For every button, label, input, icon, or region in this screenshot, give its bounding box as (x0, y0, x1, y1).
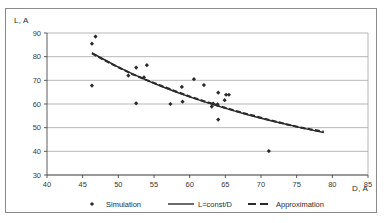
legend-label: Simulation (106, 200, 141, 209)
data-point-diamond (267, 149, 271, 153)
x-tick-label: 40 (43, 180, 51, 189)
x-tick-label: 45 (78, 180, 86, 189)
chart-figure: L, A D, A 30405060708090 404550556065707… (0, 0, 386, 223)
data-point-diamond (126, 74, 130, 78)
y-tick-label: 50 (33, 123, 41, 132)
y-axis-ticks-group: 30405060708090 (33, 29, 47, 180)
data-point-diamond (134, 101, 138, 105)
x-tick-label: 70 (257, 180, 265, 189)
series-line-l-const-d (92, 53, 324, 133)
series-line-approximation (92, 53, 324, 131)
data-point-diamond (180, 100, 184, 104)
y-tick-label: 40 (33, 147, 41, 156)
y-tick-label: 80 (33, 52, 41, 61)
chart-legend: SimulationL=const/DApproximation (90, 200, 324, 209)
legend-label: L=const/D (198, 200, 233, 209)
y-tick-label: 90 (33, 29, 41, 38)
data-point-diamond (216, 118, 220, 122)
data-point-diamond (145, 63, 149, 67)
data-point-diamond (90, 42, 94, 46)
x-axis-ticks-group: 40455055606570758085 (43, 175, 372, 189)
data-point-diamond (223, 98, 227, 102)
y-tick-label: 30 (33, 171, 41, 180)
data-point-diamond (168, 102, 172, 106)
data-point-diamond (227, 93, 231, 97)
chart-plot: 30405060708090 40455055606570758085 Simu… (0, 0, 386, 223)
data-point-diamond (93, 34, 97, 38)
data-point-diamond (134, 65, 138, 69)
x-tick-label: 65 (221, 180, 229, 189)
x-tick-label: 55 (150, 180, 158, 189)
legend-marker-simulation (90, 202, 94, 206)
data-point-diamond (216, 91, 220, 95)
data-point-diamond (90, 83, 94, 87)
data-point-diamond (202, 83, 206, 87)
series-lines-group (92, 53, 324, 133)
y-tick-label: 60 (33, 100, 41, 109)
x-tick-label: 85 (364, 180, 372, 189)
data-point-diamond (180, 85, 184, 89)
y-tick-label: 70 (33, 76, 41, 85)
x-tick-label: 75 (292, 180, 300, 189)
x-tick-label: 50 (114, 180, 122, 189)
legend-label: Approximation (276, 200, 324, 209)
x-tick-label: 60 (185, 180, 193, 189)
x-tick-label: 80 (328, 180, 336, 189)
